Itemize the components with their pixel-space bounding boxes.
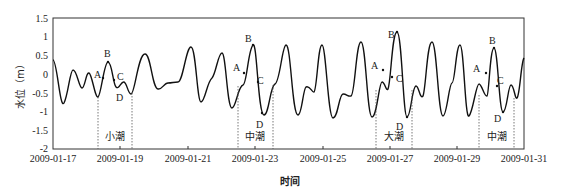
svg-text:A: A [94, 69, 102, 80]
svg-text:B: B [489, 35, 496, 46]
mean-tide-label-1: 中潮 [245, 130, 265, 142]
svg-text:A: A [371, 60, 379, 71]
svg-text:C: C [257, 75, 264, 86]
svg-text:D: D [494, 113, 501, 124]
y-tick-label: -1 [40, 106, 48, 117]
x-tick-label: 2009-01-27 [367, 153, 414, 164]
points-group-neap: A B C D [94, 48, 124, 103]
y-tick-label: 1.5 [36, 13, 49, 24]
x-tick-label: 2009-01-17 [30, 153, 77, 164]
x-tick-label: 2009-01-21 [165, 153, 212, 164]
y-tick-label: 0 [43, 69, 48, 80]
points-group-mean-1: A B C D [233, 33, 264, 130]
svg-text:A: A [233, 62, 241, 73]
x-tick-label: 2009-01-25 [300, 153, 347, 164]
svg-text:C: C [497, 75, 504, 86]
y-tick-label: -1.5 [32, 125, 48, 136]
tide-level-chart: 1.5 1 0.5 0 -0.5 -1 -1.5 -2 水位（m） 2009-0… [0, 0, 561, 193]
x-tick-label: 2009-01-23 [232, 153, 279, 164]
tide-period-markers [98, 85, 514, 149]
y-axis: 1.5 1 0.5 0 -0.5 -1 -1.5 -2 水位（m） [14, 13, 48, 154]
svg-text:B: B [388, 29, 395, 40]
y-tick-label: 1 [43, 31, 48, 42]
svg-text:B: B [245, 33, 252, 44]
svg-text:C: C [117, 71, 124, 82]
svg-text:A: A [473, 63, 481, 74]
x-axis-title: 时间 [280, 175, 300, 187]
y-tick-label: 0.5 [36, 50, 49, 61]
plot-frame [53, 18, 524, 149]
x-tick-label: 2009-01-29 [434, 153, 481, 164]
x-tick-label: 2009-01-19 [97, 153, 144, 164]
y-axis-title: 水位（m） [14, 59, 26, 109]
svg-text:D: D [116, 92, 123, 103]
mean-tide-label-2: 中潮 [487, 130, 507, 142]
y-tick-label: -0.5 [32, 88, 48, 99]
svg-text:D: D [396, 121, 403, 132]
svg-text:B: B [104, 48, 111, 59]
neap-tide-label: 小潮 [105, 130, 125, 142]
svg-text:D: D [256, 119, 263, 130]
svg-text:C: C [396, 73, 403, 84]
x-tick-label: 2009-01-31 [501, 153, 548, 164]
x-axis: 2009-01-17 2009-01-19 2009-01-21 2009-01… [30, 146, 548, 187]
